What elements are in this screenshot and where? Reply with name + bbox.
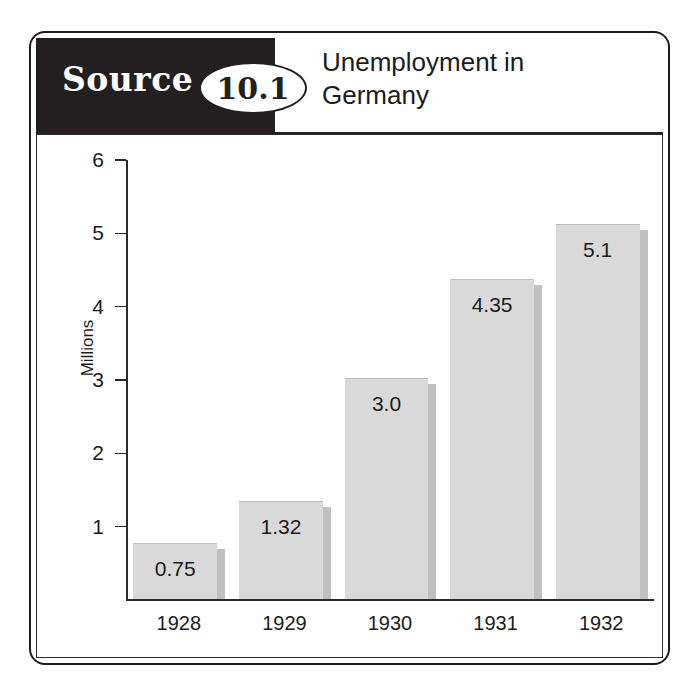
x-axis-line [126, 599, 654, 601]
bar-value-label: 0.75 [133, 558, 217, 579]
y-axis-tick-label: 3 [64, 369, 104, 390]
x-axis-label: 1931 [450, 612, 541, 634]
bar-value-label: 5.1 [556, 239, 640, 260]
y-axis-tick [115, 233, 126, 235]
source-label: Source [62, 60, 193, 100]
bar-1928: 0.75 [133, 544, 224, 599]
y-axis-tick [115, 306, 126, 308]
figure-title: Unemployment in Germany [322, 46, 642, 112]
x-axis-label: 1930 [345, 612, 436, 634]
bar-1929: 1.32 [239, 502, 330, 599]
x-axis-label: 1928 [133, 612, 224, 634]
y-axis-tick-label: 2 [64, 442, 104, 463]
y-axis-tick [115, 526, 126, 528]
y-axis-line [126, 160, 128, 600]
bar-shadow [323, 507, 331, 599]
figure-title-line-2: Germany [322, 79, 642, 112]
x-axis-label: 1932 [556, 612, 647, 634]
bar-shadow [640, 230, 648, 599]
bar-1931: 4.35 [450, 280, 541, 599]
y-axis-tick [115, 453, 126, 455]
bar-body [556, 224, 640, 599]
x-axis-label: 1929 [239, 612, 330, 634]
y-axis-tick-label: 5 [64, 222, 104, 243]
y-axis-tick-label: 1 [64, 516, 104, 537]
bar-shadow [217, 549, 225, 599]
y-axis-tick [115, 159, 126, 161]
bar-1930: 3.0 [345, 379, 436, 599]
bar-body [450, 279, 534, 599]
bar-value-label: 3.0 [345, 393, 429, 414]
bar-value-label: 4.35 [450, 294, 534, 315]
bar-value-label: 1.32 [239, 516, 323, 537]
bar-shadow [428, 384, 436, 599]
plot-area: Millions 123456 0.751.323.04.355.1 19281… [126, 160, 666, 600]
bar-shadow [534, 285, 542, 599]
source-number-text: 10.1 [201, 64, 305, 112]
figure-title-line-1: Unemployment in [322, 46, 642, 79]
chart-panel: Millions 123456 0.751.323.04.355.1 19281… [36, 134, 663, 658]
figure-header: Source 10.1 Unemployment in Germany [36, 38, 663, 132]
source-figure-card: Source 10.1 Unemployment in Germany Mill… [29, 31, 670, 665]
bar-1932: 5.1 [556, 225, 647, 599]
source-number-badge: 10.1 [199, 62, 307, 114]
y-axis-tick-label: 6 [64, 149, 104, 170]
y-axis-tick [115, 379, 126, 381]
y-axis-tick-label: 4 [64, 296, 104, 317]
